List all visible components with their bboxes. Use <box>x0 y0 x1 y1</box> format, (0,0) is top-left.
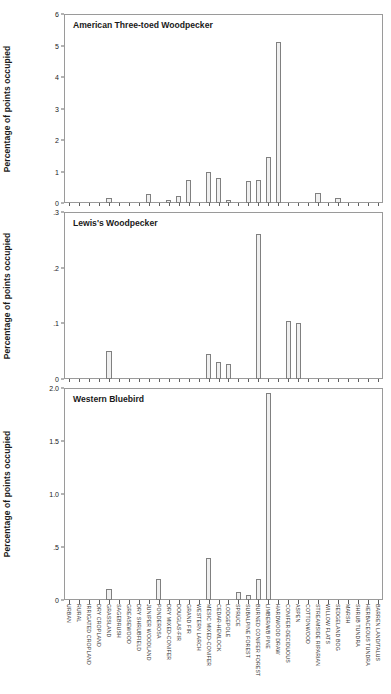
x-tick-mark <box>278 203 279 206</box>
y-tick-3-2: 1.0 <box>49 491 64 498</box>
y-axis-label-3: Percentage of points occupied <box>0 388 15 600</box>
x-tick-mark <box>228 379 229 382</box>
figure-three-panel-bar-chart: Percentage of points occupiedAmerican Th… <box>0 0 391 694</box>
y-tick-label: .3 <box>53 209 59 216</box>
x-tick-mark <box>338 203 339 206</box>
bar-2-15 <box>216 362 221 379</box>
x-axis-label-15: CEDAR-HEMLOCK <box>215 604 220 652</box>
bar-1-18 <box>246 181 251 203</box>
x-tick-mark <box>219 203 220 206</box>
x-tick-mark <box>119 379 120 382</box>
y-tick-3-1: .5 <box>53 544 64 551</box>
x-tick-marks-2 <box>64 379 383 383</box>
y-tick-label: .1 <box>53 320 59 327</box>
x-tick-mark <box>268 203 269 206</box>
y-axis-label-text: Percentage of points occupied <box>2 45 12 172</box>
y-tick-1-1: 1 <box>55 168 64 175</box>
x-axis-label-5: SAGEBRUSH <box>116 604 121 638</box>
x-axis-label-2: IRRIGATED CROPLAND <box>86 604 91 665</box>
y-tick-1-4: 4 <box>55 74 64 81</box>
x-axis-label-4: GRASSLAND <box>106 604 111 637</box>
x-tick-mark <box>328 379 329 382</box>
x-tick-mark <box>298 379 299 382</box>
x-tick-mark <box>258 379 259 382</box>
x-axis-label-13: WESTERN LARCH <box>195 604 200 651</box>
bar-3-9 <box>156 579 161 600</box>
x-axis-label-23: ASPEN <box>295 604 300 622</box>
x-axis-label-31: BARREN LAND/TALUS <box>375 604 380 661</box>
x-tick-mark <box>99 203 100 206</box>
x-tick-mark <box>378 203 379 206</box>
x-tick-mark <box>318 203 319 206</box>
chart-panel-1: Percentage of points occupiedAmerican Th… <box>0 14 391 203</box>
bar-1-25 <box>315 193 320 203</box>
bar-3-14 <box>206 558 211 600</box>
bar-2-16 <box>226 364 231 379</box>
bar-3-4 <box>106 589 111 600</box>
x-tick-mark <box>69 379 70 382</box>
x-axis-label-27: SEDGELAND BOG <box>335 604 340 651</box>
y-tick-3-0: 0 <box>55 597 64 604</box>
x-tick-mark <box>149 379 150 382</box>
bar-1-21 <box>276 42 281 203</box>
y-tick-label: 2.0 <box>49 385 59 392</box>
x-tick-mark <box>258 203 259 206</box>
x-tick-mark <box>288 379 289 382</box>
x-axis-label-25: STREAMSIDE RIPARIAN <box>315 604 320 666</box>
plot-area-3: Western Bluebird0.51.01.52.0 <box>64 388 383 600</box>
x-tick-marks-1 <box>64 203 383 207</box>
x-tick-mark <box>368 379 369 382</box>
x-tick-mark <box>358 379 359 382</box>
x-tick-mark <box>129 203 130 206</box>
x-axis-label-18: SUBALPINE FOREST <box>245 604 250 658</box>
x-axis-label-28: MARSH <box>345 604 350 623</box>
y-tick-2-1: .1 <box>53 320 64 327</box>
bar-series-3 <box>64 388 383 600</box>
x-tick-mark <box>268 379 269 382</box>
y-tick-1-3: 3 <box>55 105 64 112</box>
y-tick-2-2: .2 <box>53 264 64 271</box>
y-tick-1-5: 5 <box>55 42 64 49</box>
y-tick-label: 2 <box>55 137 59 144</box>
x-axis-label-10: DRY MIXED-CONIFER <box>165 604 170 660</box>
y-tick-2-3: .3 <box>53 209 64 216</box>
x-tick-mark <box>69 203 70 206</box>
x-tick-mark <box>189 379 190 382</box>
y-axis-label-2: Percentage of points occupied <box>0 212 15 379</box>
x-axis-label-3: DRY CROPLAND <box>96 604 101 647</box>
x-tick-mark <box>169 379 170 382</box>
x-tick-mark <box>209 379 210 382</box>
x-tick-mark <box>159 379 160 382</box>
x-axis-label-1: RURAL <box>76 604 81 622</box>
y-tick-label: 6 <box>55 11 59 18</box>
bar-3-19 <box>256 579 261 600</box>
bar-1-20 <box>266 157 271 203</box>
bar-series-2 <box>64 212 383 379</box>
x-tick-mark <box>358 203 359 206</box>
x-tick-mark <box>99 379 100 382</box>
plot-area-2: Lewis's Woodpecker0.1.2.3 <box>64 212 383 379</box>
x-tick-mark <box>119 203 120 206</box>
x-axis-label-21: HARDWOOD DRAW <box>275 604 280 654</box>
x-axis-label-12: GRAND FIR <box>185 604 190 634</box>
y-tick-label: 0 <box>55 597 59 604</box>
x-axis-label-8: JUNIPER WOODLAND <box>146 604 151 661</box>
x-tick-mark <box>238 379 239 382</box>
x-axis-label-24: COTTONWOOD <box>305 604 310 644</box>
chart-panel-2: Percentage of points occupiedLewis's Woo… <box>0 212 391 379</box>
x-tick-mark <box>278 379 279 382</box>
x-tick-mark <box>328 203 329 206</box>
x-tick-mark <box>139 379 140 382</box>
x-axis-label-0: URBAN <box>66 604 71 623</box>
bar-1-11 <box>176 196 181 203</box>
x-tick-mark <box>368 203 369 206</box>
x-tick-mark <box>199 379 200 382</box>
x-tick-mark <box>169 203 170 206</box>
x-axis-label-7: DRY SHRUBFIELD <box>136 604 141 651</box>
y-tick-1-0: 0 <box>55 200 64 207</box>
y-tick-label: 4 <box>55 74 59 81</box>
x-tick-mark <box>308 203 309 206</box>
x-tick-mark <box>179 379 180 382</box>
x-tick-mark <box>348 379 349 382</box>
x-tick-mark <box>308 379 309 382</box>
